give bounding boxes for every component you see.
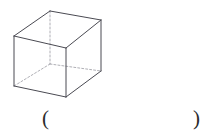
- close-parenthesis: ): [193, 103, 200, 133]
- hidden-edge-back_bottom_left-to-back_bottom_right: [50, 64, 101, 71]
- edge-front_bottom_right-to-front_bottom_left: [14, 86, 66, 97]
- cuboid-svg: [0, 0, 215, 105]
- edge-front_top_right-to-back_top_right: [66, 20, 101, 48]
- edge-front_top_left-to-front_top_right: [14, 36, 66, 48]
- edge-front_bottom_right-to-back_bottom_right: [66, 71, 101, 97]
- cuboid-figure: [0, 0, 215, 105]
- page-root: ( ): [0, 0, 215, 137]
- edge-back_top_left-to-back_top_right: [50, 11, 101, 20]
- hidden-edges-group: [14, 11, 101, 86]
- hidden-edge-back_bottom_left-to-front_bottom_left: [14, 64, 50, 86]
- open-parenthesis: (: [42, 103, 49, 133]
- answer-row: ( ): [0, 103, 215, 137]
- answer-blank[interactable]: [56, 103, 190, 133]
- edge-front_top_left-to-back_top_left: [14, 11, 50, 36]
- visible-edges-group: [14, 11, 101, 97]
